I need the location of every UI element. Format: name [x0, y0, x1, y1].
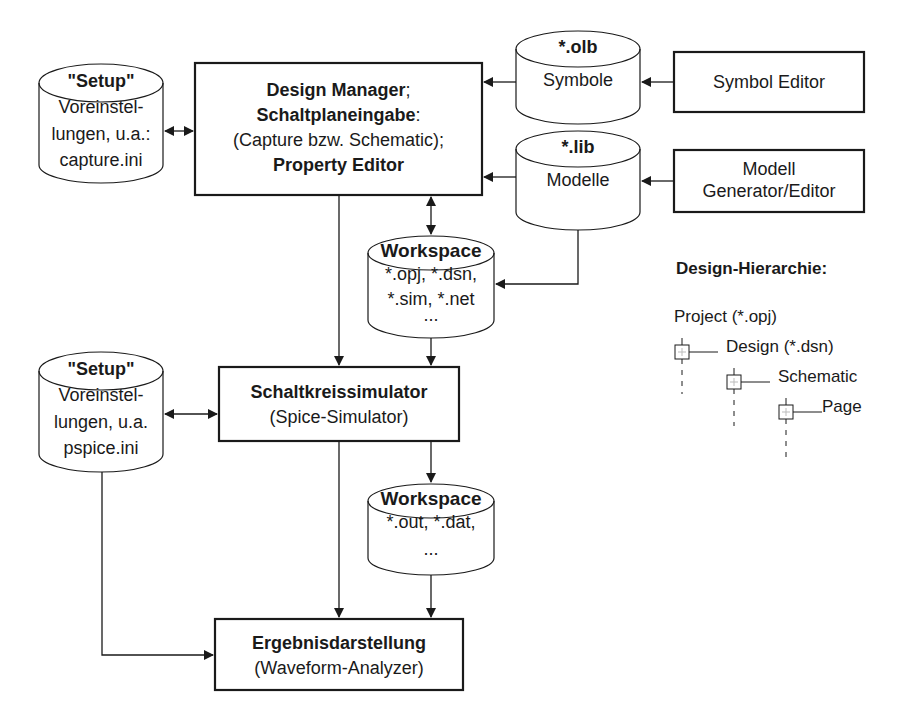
- workspace-sim-label: Workspace *.out, *.dat, ...: [368, 487, 494, 561]
- hierarchy-level-project: Project (*.opj): [674, 307, 777, 327]
- results-title: Ergebnisdarstellung: [215, 631, 463, 656]
- hierarchy-level-schematic: Schematic: [778, 367, 857, 387]
- hierarchy-level-page: Page: [822, 397, 862, 417]
- symbol-editor-label: Symbol Editor: [674, 71, 864, 93]
- simulator-subtitle: (Spice-Simulator): [219, 405, 459, 430]
- olb-title: *.olb: [516, 36, 640, 58]
- olb-label: *.olb Symbole: [516, 36, 640, 91]
- workspace-design-label: Workspace *.opj, *.dsn, *.sim, *.net ...: [368, 239, 494, 321]
- lib-label: *.lib Modelle: [516, 136, 640, 191]
- design-manager-label: Design Manager; Schaltplaneingabe: (Capt…: [195, 78, 482, 178]
- arrow-lib-to-workspace: [496, 230, 578, 284]
- setup-capture-line: lungen, u.a.:: [39, 123, 163, 145]
- lib-name: Modelle: [516, 169, 640, 191]
- results-subtitle: (Waveform-Analyzer): [215, 656, 463, 681]
- results-label: Ergebnisdarstellung (Waveform-Analyzer): [215, 631, 463, 681]
- olb-name: Symbole: [516, 69, 640, 91]
- setup-capture-label: "Setup" Voreinstel- lungen, u.a.: captur…: [39, 70, 163, 171]
- arrow-setup-to-results: [102, 472, 213, 655]
- dm-subtitle: Schaltplaneingabe: [256, 105, 415, 125]
- workspace-sim-title: Workspace: [368, 487, 494, 510]
- workspace-design-title: Workspace: [368, 239, 494, 262]
- setup-capture-title: "Setup": [39, 70, 163, 92]
- simulator-label: Schaltkreissimulator (Spice-Simulator): [219, 380, 459, 430]
- hierarchy-heading: Design-Hierarchie:: [676, 259, 827, 279]
- dm-property-editor: Property Editor: [195, 153, 482, 178]
- lib-title: *.lib: [516, 136, 640, 158]
- dm-capture-line: (Capture bzw. Schematic);: [195, 128, 482, 153]
- hierarchy-level-design: Design (*.dsn): [726, 337, 834, 357]
- model-editor-label: Modell Generator/Editor: [674, 158, 864, 202]
- setup-pspice-title: "Setup": [39, 358, 163, 380]
- simulator-title: Schaltkreissimulator: [219, 380, 459, 405]
- dm-title: Design Manager: [266, 80, 405, 100]
- setup-pspice-label: "Setup" Voreinstel- lungen, u.a. pspice.…: [39, 358, 163, 459]
- setup-capture-line: Voreinstel-: [39, 96, 163, 118]
- setup-capture-line: capture.ini: [39, 149, 163, 171]
